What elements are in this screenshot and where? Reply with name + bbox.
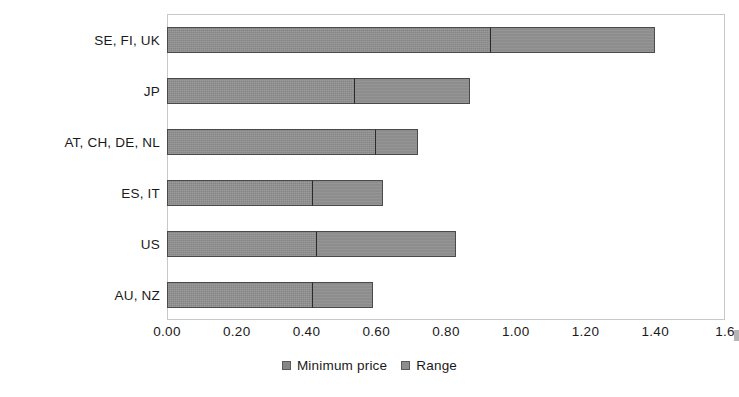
- category-label: ES, IT: [0, 185, 160, 200]
- legend-label: Minimum price: [297, 358, 387, 373]
- x-tick-label: 0.20: [223, 324, 250, 339]
- legend-label: Range: [416, 358, 457, 373]
- bar-segment-range: [317, 231, 457, 257]
- x-tick-label: 0.00: [153, 324, 180, 339]
- legend-entry[interactable]: Range: [401, 358, 457, 373]
- bar-segment-minimum-price: [167, 78, 355, 104]
- bar-segment-minimum-price: [167, 129, 376, 155]
- x-tick-label: 0.40: [293, 324, 320, 339]
- bar-chart-figure: SE, FI, UKJPAT, CH, DE, NLES, ITUSAU, NZ…: [0, 0, 739, 397]
- bar-segment-minimum-price: [167, 27, 491, 53]
- x-tick-label: 1.6: [715, 324, 735, 339]
- bar-segment-range: [376, 129, 418, 155]
- category-label: US: [0, 236, 160, 251]
- bar-segment-minimum-price: [167, 180, 313, 206]
- bar-segment-range: [491, 27, 655, 53]
- chart-legend: Minimum priceRange: [0, 358, 739, 373]
- legend-swatch-icon: [401, 361, 410, 370]
- bar-segment-range: [313, 282, 372, 308]
- category-axis: SE, FI, UKJPAT, CH, DE, NLES, ITUSAU, NZ: [0, 14, 160, 320]
- bar-segment-range: [313, 180, 383, 206]
- x-tick-label: 1.40: [642, 324, 669, 339]
- bar-segment-minimum-price: [167, 282, 313, 308]
- x-tick-label: 1.20: [572, 324, 599, 339]
- legend-entry[interactable]: Minimum price: [282, 358, 387, 373]
- x-tick-label: 1.00: [502, 324, 529, 339]
- x-tick-label: 0.60: [363, 324, 390, 339]
- category-label: AT, CH, DE, NL: [0, 134, 160, 149]
- bar-segment-range: [355, 78, 470, 104]
- category-label: SE, FI, UK: [0, 32, 160, 47]
- x-tick-label: 0.80: [432, 324, 459, 339]
- category-label: AU, NZ: [0, 287, 160, 302]
- category-label: JP: [0, 83, 160, 98]
- value-axis: 0.000.200.400.600.801.001.201.401.6: [167, 322, 739, 348]
- bar-segment-minimum-price: [167, 231, 317, 257]
- scan-edge-artifact: [734, 330, 739, 341]
- bars-layer: [167, 14, 725, 320]
- legend-swatch-icon: [282, 361, 291, 370]
